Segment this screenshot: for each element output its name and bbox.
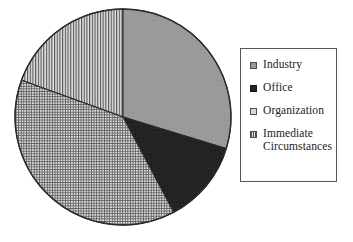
legend-label-immediate-circumstances: Immediate Circumstances: [263, 127, 332, 153]
legend-item-immediate-circumstances: Immediate Circumstances: [250, 127, 336, 153]
legend-item-industry: Industry: [250, 58, 336, 71]
legend-item-office: Office: [250, 81, 336, 94]
legend-swatch-industry: [250, 62, 257, 69]
legend-swatch-immediate-circumstances: [250, 131, 257, 138]
chart-legend: Industry Office Organization Immediate C…: [240, 48, 337, 182]
pie-chart-graphic: [0, 0, 240, 242]
pie-svg: [0, 0, 240, 242]
legend-label-office: Office: [263, 81, 293, 94]
pie-chart-figure: Industry Office Organization Immediate C…: [0, 0, 353, 242]
legend-label-organization: Organization: [263, 104, 324, 117]
legend-swatch-organization: [250, 108, 257, 115]
legend-label-industry: Industry: [263, 58, 302, 71]
legend-item-organization: Organization: [250, 104, 336, 117]
legend-swatch-office: [250, 85, 257, 92]
pie-slices: [15, 9, 231, 225]
